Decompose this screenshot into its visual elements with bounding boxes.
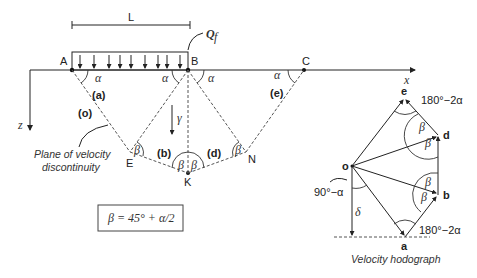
block-b-label: (b) xyxy=(157,147,171,159)
hodo-beta-d-lower: β xyxy=(424,136,431,150)
label-B: B xyxy=(191,55,198,67)
beta-K-right: β xyxy=(190,158,197,172)
alpha-C: α xyxy=(274,68,281,82)
hodo-label-o: o xyxy=(342,160,349,172)
label-gamma: γ xyxy=(177,111,182,125)
block-d-label: (d) xyxy=(207,147,221,159)
annotation-line1: Plane of velocity xyxy=(34,148,111,160)
label-E: E xyxy=(126,157,133,169)
vector-oe xyxy=(352,100,403,166)
angle-label-left: 90°−α xyxy=(314,186,344,198)
diagram-canvas: L Q f x z A B C E xyxy=(0,0,477,278)
label-N: N xyxy=(248,153,256,165)
hodo-label-a: a xyxy=(401,240,408,252)
block-o-label: (o) xyxy=(78,107,92,119)
hodo-label-d: d xyxy=(443,129,450,141)
annotation-line2: discontinuity xyxy=(42,161,101,173)
dimension-L: L xyxy=(72,11,190,29)
vector-od xyxy=(352,137,436,166)
hodo-beta-b-upper: β xyxy=(424,175,431,189)
beta-N: β xyxy=(234,143,241,157)
label-Q-sub: f xyxy=(214,30,219,44)
velocity-hodograph: o e d b a 180°−2α β β β β 180°−2α 90°−α … xyxy=(314,85,463,265)
block-a-label: (a) xyxy=(92,89,106,101)
hodo-beta-b-lower: β xyxy=(420,190,427,204)
alpha-A: α xyxy=(95,71,102,85)
label-C: C xyxy=(302,55,310,67)
alpha-arc-C xyxy=(288,70,295,83)
alpha-arc-B-right xyxy=(197,70,204,83)
angle-arc-a xyxy=(394,220,416,224)
block-e-label: (e) xyxy=(270,87,284,99)
hodo-label-b: b xyxy=(443,189,450,201)
failure-mechanism: L Q f x z A B C E xyxy=(17,11,415,231)
label-A: A xyxy=(60,55,68,67)
angle-arc-o xyxy=(352,185,367,188)
beta-formula-box: β = 45° + α/2 xyxy=(98,205,183,231)
angle-leader-o xyxy=(330,178,347,182)
vector-oa xyxy=(352,166,404,235)
label-delta: δ xyxy=(355,205,361,219)
hodograph-caption: Velocity hodograph xyxy=(351,253,441,265)
angle-label-top: 180°−2α xyxy=(421,94,463,106)
beta-K-left: β xyxy=(177,158,184,172)
vector-ob xyxy=(352,166,436,193)
angle-label-bottom: 180°−2α xyxy=(419,224,461,236)
hodo-label-e: e xyxy=(401,85,407,97)
label-K: K xyxy=(184,176,192,188)
beta-E: β xyxy=(133,143,140,157)
point-C xyxy=(302,68,306,72)
beta-formula: β = 45° + α/2 xyxy=(107,211,175,225)
hodo-beta-d-upper: β xyxy=(418,120,425,134)
alpha-arc-B-left xyxy=(172,70,179,83)
label-L: L xyxy=(128,11,134,23)
label-z-axis: z xyxy=(17,118,23,132)
annotation-leader xyxy=(79,125,108,147)
alpha-B-right: α xyxy=(208,71,215,85)
alpha-B-left: α xyxy=(162,71,169,85)
angle-arc-e xyxy=(394,111,416,115)
alpha-arc-A xyxy=(81,70,88,83)
